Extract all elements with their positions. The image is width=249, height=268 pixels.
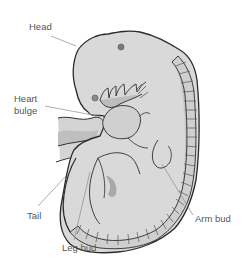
otic-spot	[118, 44, 124, 50]
leader-head	[51, 36, 76, 46]
label-tail: Tail	[27, 210, 41, 222]
label-arm-bud: Arm bud	[195, 213, 231, 225]
embryo-illustration	[0, 0, 249, 268]
label-head: Head	[29, 21, 52, 33]
embryo-diagram: Head Heart bulge Tail Leg bud Arm bud	[0, 0, 249, 268]
eye-spot	[92, 95, 98, 101]
label-leg-bud: Leg bud	[62, 242, 96, 254]
label-heart-bulge: Heart bulge	[14, 93, 37, 117]
